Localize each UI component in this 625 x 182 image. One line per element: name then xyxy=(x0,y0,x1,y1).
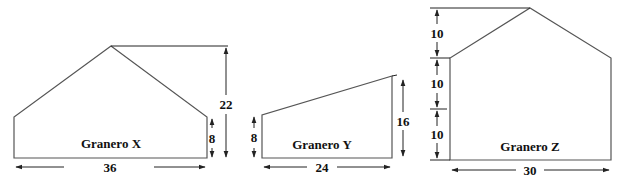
barn-y-name: Granero Y xyxy=(292,137,352,152)
barn-y-left-height-label: 8 xyxy=(251,130,258,145)
barn-z-width-label: 30 xyxy=(524,163,537,178)
barn-y: 24 8 16 Granero Y xyxy=(251,75,410,175)
barn-z-upper-wall-label: 10 xyxy=(431,76,444,91)
barn-x-wall-height-label: 8 xyxy=(209,131,216,146)
barn-z-outline xyxy=(450,8,611,160)
barn-z-lower-wall-label: 10 xyxy=(431,127,444,142)
barns-diagram: 36 8 22 Granero X 24 8 16 Granero Y xyxy=(0,0,625,182)
barn-z-name: Granero Z xyxy=(500,139,560,154)
barn-y-right-height-label: 16 xyxy=(397,114,411,129)
barn-x-total-height-label: 22 xyxy=(220,97,233,112)
barn-y-roof-extension xyxy=(392,75,397,76)
barn-x: 36 8 22 Granero X xyxy=(14,46,233,175)
barn-x-name: Granero X xyxy=(81,136,142,151)
barn-z-roof-height-label: 10 xyxy=(431,26,444,41)
barn-x-width-label: 36 xyxy=(104,160,118,175)
barn-y-width-label: 24 xyxy=(316,160,330,175)
barn-z: 10 10 10 30 Granero Z xyxy=(430,8,611,178)
